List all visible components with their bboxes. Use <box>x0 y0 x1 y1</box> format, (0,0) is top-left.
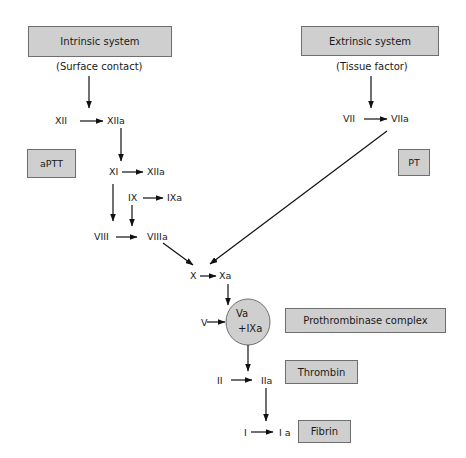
factor-vii: VII <box>343 114 355 124</box>
complex-ixa-label: +IXa <box>238 324 262 334</box>
aptt-label: aPTT <box>40 158 63 169</box>
pt-box: PT <box>398 149 430 176</box>
factor-xa: Xa <box>219 271 231 281</box>
factor-v: V <box>201 318 208 328</box>
factor-viii: VIII <box>94 232 109 242</box>
factor-ix: IX <box>128 193 137 203</box>
extrinsic-system-box: Extrinsic system <box>301 26 439 56</box>
arrow-viia-to-x <box>210 131 387 264</box>
factor-x: X <box>190 271 197 281</box>
extrinsic-system-label: Extrinsic system <box>329 36 411 47</box>
fibrin-box: Fibrin <box>298 420 351 443</box>
intrinsic-system-label: Intrinsic system <box>60 36 139 47</box>
factor-ixa: IXa <box>167 193 182 203</box>
thrombin-label: Thrombin <box>298 367 346 378</box>
aptt-box: aPTT <box>27 149 76 178</box>
factor-viia: VIIa <box>391 114 409 124</box>
factor-i: I <box>244 428 247 438</box>
factor-xi: XI <box>109 167 118 177</box>
tissue-factor-label: (Tissue factor) <box>336 62 408 72</box>
thrombin-box: Thrombin <box>285 360 358 384</box>
factor-xiia-2: XIIa <box>147 167 165 177</box>
factor-viiia: VIIIa <box>147 232 168 242</box>
surface-contact-label: (Surface contact) <box>56 62 143 72</box>
factor-xii: XII <box>55 116 67 126</box>
factor-xiia: XIIa <box>107 116 125 126</box>
pt-label: PT <box>408 157 420 168</box>
factor-ia: I a <box>279 428 291 438</box>
arrow-viiia-to-x <box>163 243 193 265</box>
factor-ii: II <box>217 376 223 386</box>
complex-va-label: Va <box>236 309 248 319</box>
prothrombinase-complex-box: Prothrombinase complex <box>285 308 446 333</box>
prothrombinase-circle <box>226 299 270 345</box>
intrinsic-system-box: Intrinsic system <box>28 26 172 57</box>
fibrin-label: Fibrin <box>311 426 338 437</box>
prothrombinase-complex-label: Prothrombinase complex <box>303 315 427 326</box>
factor-iia: IIa <box>261 376 272 386</box>
coagulation-cascade-diagram: Intrinsic system Extrinsic system aPTT P… <box>0 0 466 458</box>
